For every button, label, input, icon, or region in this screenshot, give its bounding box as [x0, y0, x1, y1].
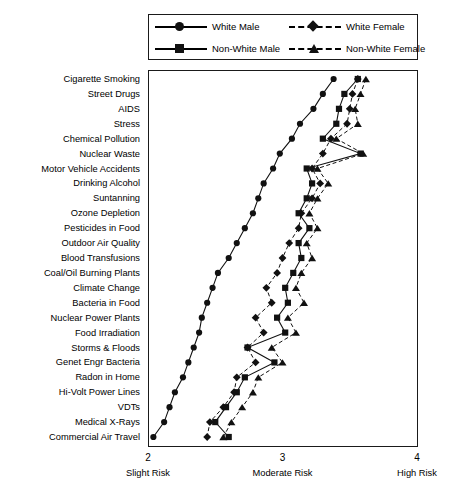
- y-axis-label-suntanning: Suntanning: [0, 193, 144, 203]
- data-point-non-white-male-22: [223, 404, 229, 410]
- y-axis-label-commercial-air-travel: Commercial Air Travel: [0, 432, 144, 442]
- data-point-non-white-female-17: [292, 329, 300, 335]
- y-axis-label-nuclear-power-plants: Nuclear Power Plants: [0, 313, 144, 323]
- data-point-white-female-1: [349, 90, 357, 98]
- data-point-non-white-male-12: [298, 255, 304, 261]
- x-tick-label-moderate-risk: Moderate Risk: [228, 468, 338, 479]
- data-point-non-white-female-21: [249, 389, 257, 395]
- data-point-white-male-13: [215, 270, 221, 276]
- data-point-non-white-female-9: [305, 210, 313, 216]
- y-axis-label-storms-floods: Storms & Floods: [0, 343, 144, 353]
- data-point-white-female-5: [319, 150, 327, 158]
- data-point-white-male-18: [191, 344, 197, 350]
- data-point-non-white-male-11: [296, 240, 302, 246]
- x-tick-value-4: 4: [397, 452, 437, 463]
- y-axis-label-nuclear-waste: Nuclear Waste: [0, 149, 144, 159]
- data-point-non-white-male-8: [304, 195, 310, 201]
- data-point-white-male-12: [226, 255, 232, 261]
- y-axis-label-outdoor-air-quality: Outdoor Air Quality: [0, 238, 144, 248]
- data-point-non-white-male-15: [285, 300, 291, 306]
- y-axis-label-bacteria-in-food: Bacteria in Food: [0, 298, 144, 308]
- data-point-white-female-14: [262, 284, 270, 292]
- data-point-non-white-male-10: [306, 225, 312, 231]
- data-point-white-male-4: [289, 136, 295, 142]
- risk-perception-chart: White Male White Female Non-White Male: [0, 0, 455, 503]
- legend-label-white-female: White Female: [346, 21, 405, 32]
- series-line-white-male: [153, 79, 333, 437]
- data-point-non-white-male-17: [282, 329, 288, 335]
- legend-row-2: Non-White Male Non-White Female: [149, 37, 417, 60]
- data-point-non-white-male-2: [336, 106, 342, 112]
- data-point-non-white-female-10: [313, 225, 321, 231]
- legend-sample-triangle-dashed: [289, 43, 341, 55]
- y-axis-label-climate-change: Climate Change: [0, 283, 144, 293]
- data-point-non-white-male-20: [242, 374, 248, 380]
- y-axis-label-food-irradiation: Food Irradiation: [0, 328, 144, 338]
- legend-entry-white-male: White Male: [155, 15, 260, 38]
- data-point-white-male-3: [297, 121, 303, 127]
- data-point-white-male-14: [209, 285, 215, 291]
- legend-label-non-white-female: Non-White Female: [346, 43, 425, 54]
- data-point-white-male-16: [199, 315, 205, 321]
- data-point-white-male-15: [204, 300, 210, 306]
- data-point-non-white-female-13: [297, 270, 305, 276]
- y-axis-label-street-drugs: Street Drugs: [0, 89, 144, 99]
- data-point-white-male-9: [250, 210, 256, 216]
- legend-sample-square-solid: [155, 43, 207, 55]
- data-point-non-white-male-23: [212, 419, 218, 425]
- data-point-white-male-1: [320, 91, 326, 97]
- data-point-non-white-female-11: [303, 240, 311, 246]
- y-axis-label-pesticides-in-food: Pesticides in Food: [0, 223, 144, 233]
- data-point-white-male-21: [172, 389, 178, 395]
- legend-row-1: White Male White Female: [149, 15, 417, 38]
- data-point-non-white-male-0: [355, 76, 361, 82]
- x-tick-label-high-risk: High Risk: [362, 468, 455, 479]
- y-axis-label-medical-x-rays: Medical X-Rays: [0, 417, 144, 427]
- data-point-non-white-male-7: [309, 180, 315, 186]
- data-point-white-male-22: [166, 404, 172, 410]
- data-point-white-male-23: [161, 419, 167, 425]
- data-point-non-white-female-19: [279, 359, 287, 365]
- x-tick-label-slight-risk: Slight Risk: [93, 468, 203, 479]
- data-point-white-female-11: [285, 239, 293, 247]
- data-point-white-male-0: [331, 76, 337, 82]
- data-point-non-white-female-22: [238, 404, 246, 410]
- data-point-white-male-7: [261, 180, 267, 186]
- data-point-white-male-5: [277, 150, 283, 156]
- data-point-non-white-female-15: [300, 300, 308, 306]
- y-axis-label-cigarette-smoking: Cigarette Smoking: [0, 74, 144, 84]
- data-point-non-white-female-23: [227, 419, 235, 425]
- plot-series-layer: [148, 70, 418, 447]
- legend-entry-white-female: White Female: [289, 15, 405, 38]
- data-point-non-white-female-14: [292, 285, 300, 291]
- legend-sample-diamond-dashed: [289, 21, 341, 33]
- data-point-non-white-female-3: [354, 121, 362, 127]
- data-point-non-white-female-12: [308, 255, 316, 261]
- data-point-non-white-male-18: [244, 344, 250, 350]
- data-point-non-white-male-19: [271, 359, 277, 365]
- y-axis-label-hi-volt-power-lines: Hi-Volt Power Lines: [0, 387, 144, 397]
- chart-legend: White Male White Female Non-White Male: [148, 14, 418, 60]
- data-point-non-white-male-3: [333, 121, 339, 127]
- data-point-non-white-male-21: [234, 389, 240, 395]
- data-point-white-male-11: [234, 240, 240, 246]
- x-tick-value-2: 2: [128, 452, 168, 463]
- x-tick-value-3: 3: [263, 452, 303, 463]
- y-axis-label-drinking-alcohol: Drinking Alcohol: [0, 178, 144, 188]
- data-point-non-white-female-0: [362, 76, 370, 82]
- y-axis-category-labels: Cigarette SmokingStreet DrugsAIDSStressC…: [0, 70, 144, 447]
- legend-label-white-male: White Male: [212, 21, 260, 32]
- data-point-non-white-male-16: [274, 315, 280, 321]
- data-point-white-male-6: [270, 165, 276, 171]
- y-axis-label-stress: Stress: [0, 119, 144, 129]
- data-point-white-male-2: [310, 106, 316, 112]
- data-point-white-male-17: [196, 329, 202, 335]
- series-line-non-white-male: [215, 79, 360, 437]
- legend-entry-non-white-male: Non-White Male: [155, 37, 280, 60]
- data-point-non-white-male-6: [304, 165, 310, 171]
- y-axis-label-blood-transfusions: Blood Transfusions: [0, 253, 144, 263]
- data-point-white-male-24: [150, 434, 156, 440]
- y-axis-label-motor-vehicle-accidents: Motor Vehicle Accidents: [0, 164, 144, 174]
- legend-label-non-white-male: Non-White Male: [212, 43, 280, 54]
- data-point-non-white-male-13: [290, 270, 296, 276]
